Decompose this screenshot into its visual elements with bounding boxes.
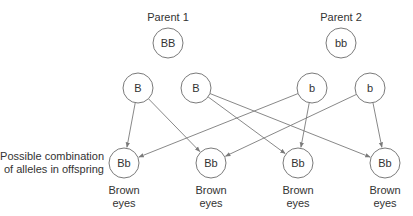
offspring-genotype: Bb — [291, 157, 304, 169]
parent-2-title: Parent 2 — [320, 11, 362, 23]
parent-1: Parent 1 BB — [147, 11, 189, 58]
offspring-2: Bb Brown eyes — [195, 148, 226, 209]
offspring-genotype: Bb — [378, 157, 391, 169]
phenotype-line-1: Brown — [108, 184, 139, 196]
offspring-side-label: Possible combination of alleles in offsp… — [0, 150, 104, 175]
side-label-line-1: Possible combination — [0, 150, 104, 162]
gamete-allele: b — [309, 82, 315, 94]
inheritance-arrows — [127, 94, 382, 158]
phenotype-line-2: eyes — [199, 197, 223, 209]
offspring-genotype-node: Bb — [370, 148, 400, 178]
parent-2-genotype-node: bb — [326, 28, 356, 58]
offspring-genotype-node: Bb — [283, 148, 313, 178]
offspring-genotype: Bb — [204, 157, 217, 169]
phenotype-line-2: eyes — [286, 197, 310, 209]
parent-1-title: Parent 1 — [147, 11, 189, 23]
parent-2: Parent 2 bb — [320, 11, 362, 58]
offspring-genotype: Bb — [117, 157, 130, 169]
inheritance-arrow — [301, 103, 309, 148]
genetics-cross-diagram: Parent 1 BB Parent 2 bb B B b b Possible… — [0, 0, 413, 216]
phenotype-line-2: eyes — [112, 197, 136, 209]
phenotype-line-1: Brown — [369, 184, 400, 196]
gamete-node-1: B — [123, 73, 153, 103]
inheritance-arrow — [373, 103, 382, 148]
offspring-3: Bb Brown eyes — [282, 148, 313, 209]
offspring-genotype-node: Bb — [196, 148, 226, 178]
parent-1-genotype-node: BB — [153, 28, 183, 58]
inheritance-arrow — [139, 94, 298, 158]
offspring-4: Bb Brown eyes — [369, 148, 400, 209]
inheritance-arrow — [148, 99, 199, 152]
offspring-1: Bb Brown eyes — [108, 148, 139, 209]
side-label-line-2: of alleles in offspring — [4, 163, 104, 175]
parent-1-genotype: BB — [161, 37, 176, 49]
phenotype-line-1: Brown — [195, 184, 226, 196]
gamete-allele: B — [192, 82, 199, 94]
gamete-node-4: b — [355, 73, 385, 103]
gamete-node-3: b — [297, 73, 327, 103]
gamete-allele: b — [367, 82, 373, 94]
phenotype-line-1: Brown — [282, 184, 313, 196]
parent-2-genotype: bb — [335, 37, 347, 49]
gamete-allele: B — [134, 82, 141, 94]
offspring-genotype-node: Bb — [109, 148, 139, 178]
inheritance-arrow — [225, 94, 356, 156]
inheritance-arrow — [127, 103, 135, 148]
gamete-node-2: B — [181, 73, 211, 103]
phenotype-line-2: eyes — [373, 197, 397, 209]
